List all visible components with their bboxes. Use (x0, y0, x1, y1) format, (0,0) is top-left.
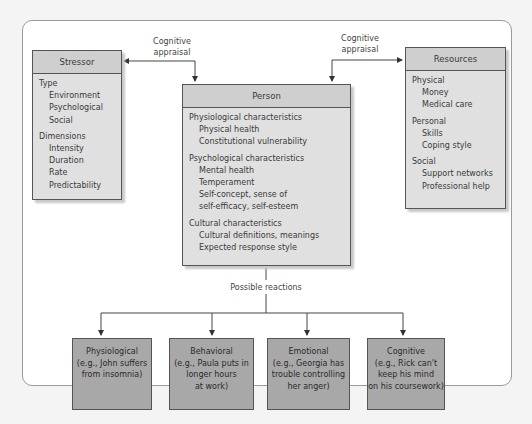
group-item: Environment (39, 90, 115, 102)
label-line: appraisal (142, 47, 202, 58)
reaction-title: Cognitive (368, 346, 444, 358)
reaction-title: Emotional (268, 346, 349, 358)
group-heading: Cultural characteristics (189, 218, 344, 230)
stressor-group-dimensions: Dimensions Intensity Duration Rate Predi… (39, 131, 115, 192)
group-item: Physical health (189, 124, 344, 136)
resources-title: Resources (406, 48, 505, 71)
group-item: self-efficacy, self-esteem (189, 201, 344, 213)
group-item: Support networks (412, 168, 499, 180)
cognitive-appraisal-label-left: Cognitive appraisal (142, 36, 202, 58)
resources-group-personal: Personal Skills Coping style (412, 116, 499, 153)
person-box: Person Physiological characteristics Phy… (182, 84, 351, 266)
reaction-line: trouble controlling (268, 369, 349, 381)
label-line: Cognitive (142, 36, 202, 47)
group-item: Coping style (412, 140, 499, 152)
group-heading: Psychological characteristics (189, 153, 344, 165)
group-item: Medical care (412, 99, 499, 111)
reaction-emotional: Emotional (e.g., Georgia has trouble con… (267, 338, 350, 410)
reaction-line: keep his mind (368, 369, 444, 381)
group-item: Self-concept, sense of (189, 189, 344, 201)
group-heading: Social (412, 156, 499, 168)
label-line: Cognitive (330, 33, 390, 44)
group-item: Expected response style (189, 242, 344, 254)
group-item: Mental health (189, 165, 344, 177)
reaction-behavioral: Behavioral (e.g., Paula puts in longer h… (169, 338, 254, 410)
group-item: Rate (39, 167, 115, 179)
person-group-cultural: Cultural characteristics Cultural defini… (189, 218, 344, 255)
resources-group-physical: Physical Money Medical care (412, 75, 499, 112)
resources-group-social: Social Support networks Professional hel… (412, 156, 499, 193)
group-item: Professional help (412, 181, 499, 193)
group-item: Constitutional vulnerability (189, 136, 344, 148)
group-heading: Personal (412, 116, 499, 128)
reaction-line: longer hours (170, 369, 253, 381)
reaction-line: from insomnia) (73, 369, 151, 381)
group-heading: Physiological characteristics (189, 112, 344, 124)
group-item: Temperament (189, 177, 344, 189)
group-heading: Physical (412, 75, 499, 87)
cognitive-appraisal-label-right: Cognitive appraisal (330, 33, 390, 55)
reaction-cognitive: Cognitive (e.g., Rick can't keep his min… (367, 338, 445, 410)
label-line: appraisal (330, 44, 390, 55)
group-item: Cultural definitions, meanings (189, 230, 344, 242)
reaction-line: (e.g., John suffers (73, 358, 151, 370)
person-group-physiological: Physiological characteristics Physical h… (189, 112, 344, 149)
reaction-line: (e.g., Georgia has (268, 358, 349, 370)
possible-reactions-label: Possible reactions (216, 282, 316, 293)
group-item: Predictability (39, 180, 115, 192)
group-item: Psychological (39, 102, 115, 114)
reaction-line: on his coursework) (368, 381, 444, 393)
person-group-psychological: Psychological characteristics Mental hea… (189, 153, 344, 214)
stressor-group-type: Type Environment Psychological Social (39, 78, 115, 127)
group-heading: Dimensions (39, 131, 115, 143)
reaction-line: her anger) (268, 381, 349, 393)
reaction-title: Behavioral (170, 346, 253, 358)
resources-box: Resources Physical Money Medical care Pe… (405, 47, 506, 209)
reaction-physiological: Physiological (e.g., John suffers from i… (72, 338, 152, 410)
group-item: Intensity (39, 143, 115, 155)
group-item: Money (412, 87, 499, 99)
group-item: Duration (39, 155, 115, 167)
reaction-line: (e.g., Paula puts in (170, 358, 253, 370)
reaction-line: at work) (170, 381, 253, 393)
stressor-box: Stressor Type Environment Psychological … (32, 50, 122, 200)
reaction-title: Physiological (73, 346, 151, 358)
stressor-title: Stressor (33, 51, 121, 74)
reaction-line: (e.g., Rick can't (368, 358, 444, 370)
group-item: Skills (412, 128, 499, 140)
group-heading: Type (39, 78, 115, 90)
person-title: Person (183, 85, 350, 108)
group-item: Social (39, 115, 115, 127)
